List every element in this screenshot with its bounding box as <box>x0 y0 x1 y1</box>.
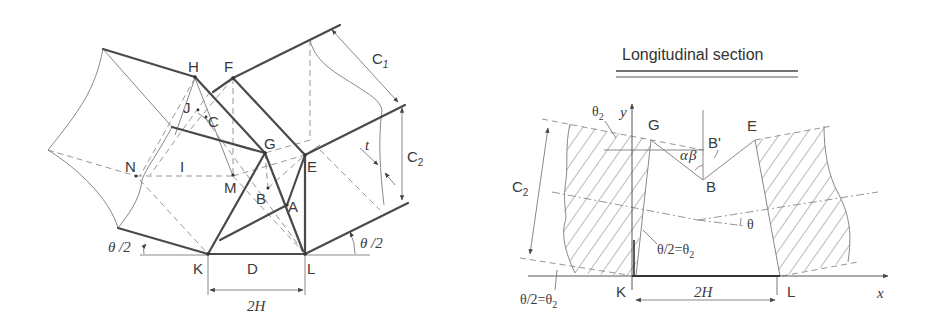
label-n: N <box>125 158 136 175</box>
right-longitudinal-section: Longitudinal section <box>512 46 888 310</box>
alpha-arc <box>714 150 718 158</box>
label-alpha: α <box>680 147 689 163</box>
label-c2: C2 <box>407 148 424 168</box>
label-angle-left: θ /2 <box>108 239 131 255</box>
label-f: F <box>224 58 233 75</box>
c2-dimension-arrow-right <box>530 128 548 254</box>
label-beta: β <box>688 147 697 163</box>
figure-canvas: H F J C G E N I M B A K D L 2H θ /2 θ /2… <box>0 0 933 334</box>
label-b-prime: B' <box>708 134 721 151</box>
left-isometric-diagram: H F J C G E N I M B A K D L 2H θ /2 θ /2… <box>48 25 424 314</box>
label-i: I <box>180 158 184 175</box>
label-theta: θ <box>747 217 754 232</box>
label-bottom-angle: θ/2=θ2 <box>520 292 557 310</box>
left-thin-lines <box>48 40 384 228</box>
beta-arc <box>695 165 703 170</box>
label-k-right: K <box>616 283 626 300</box>
label-g-right: G <box>648 116 660 133</box>
label-h: H <box>188 58 199 75</box>
label-c: C <box>208 113 219 130</box>
label-b: B <box>256 190 266 207</box>
section-title: Longitudinal section <box>622 46 763 63</box>
label-b-right: B <box>706 178 716 195</box>
t-arrow-out <box>385 173 395 185</box>
label-t: t <box>365 137 370 153</box>
left-wall-hatch <box>564 124 651 276</box>
label-theta2: θ2 <box>592 104 604 122</box>
angle-right-arc <box>350 232 355 254</box>
label-c2-right: C2 <box>512 178 529 198</box>
label-x-axis: x <box>876 285 884 301</box>
label-d: D <box>247 260 258 277</box>
label-k: K <box>193 260 203 277</box>
left-dashed-lines <box>48 40 380 254</box>
label-c1: C1 <box>372 50 388 70</box>
label-span-2h: 2H <box>247 298 267 314</box>
label-g: G <box>264 135 276 152</box>
angle-left-arc <box>143 244 146 254</box>
label-e-right: E <box>747 117 757 134</box>
inner-angle-leader <box>643 230 657 244</box>
right-wall-hatch <box>755 126 850 276</box>
label-y-axis: y <box>618 104 627 120</box>
label-a: A <box>288 198 298 215</box>
label-l-right: L <box>787 283 795 300</box>
label-l: L <box>307 260 315 277</box>
label-span-2h-right: 2H <box>694 284 714 300</box>
left-thick-edges <box>103 25 408 254</box>
label-e: E <box>307 158 317 175</box>
left-point-markers <box>134 75 306 256</box>
label-angle-right: θ /2 <box>360 235 383 251</box>
label-inner-angle: θ/2=θ2 <box>657 242 694 260</box>
label-j: J <box>183 99 191 116</box>
theta-arc <box>740 218 741 226</box>
bottom-angle-leader <box>555 270 557 290</box>
label-m: M <box>224 179 237 196</box>
